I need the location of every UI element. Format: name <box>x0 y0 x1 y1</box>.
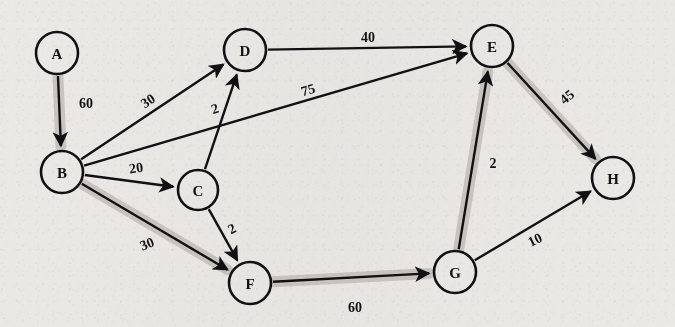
node-b: B <box>41 151 83 193</box>
edge-weight-g-h: 10 <box>525 230 544 250</box>
edge-weight-b-d: 30 <box>138 91 158 111</box>
edge-weight-f-g: 60 <box>348 300 362 315</box>
node-f: F <box>229 262 271 304</box>
edge-weight-b-c: 20 <box>128 160 144 177</box>
node-label-f: F <box>245 276 254 292</box>
node-e: E <box>471 25 513 67</box>
edge-weight-c-d: 2 <box>209 101 220 117</box>
node-label-c: C <box>193 183 204 199</box>
edge-e-h <box>508 63 596 159</box>
node-label-b: B <box>57 165 67 181</box>
node-g: G <box>434 251 476 293</box>
node-label-d: D <box>240 43 251 59</box>
node-d: D <box>224 29 266 71</box>
edge-d-e <box>268 46 466 49</box>
edge-b-c <box>85 175 173 187</box>
node-label-a: A <box>52 46 63 62</box>
node-layer: ABCDEFGH <box>36 25 634 304</box>
edge-weight-b-f: 30 <box>138 234 157 253</box>
edge-weight-a-b: 60 <box>79 96 93 111</box>
edge-g-h <box>475 191 591 260</box>
edge-weight-d-e: 40 <box>361 30 375 45</box>
edge-b-e <box>84 53 467 165</box>
edge-weight-e-h: 45 <box>557 87 577 107</box>
edge-g-e <box>459 72 488 250</box>
node-c: C <box>178 170 218 210</box>
node-label-e: E <box>487 39 497 55</box>
node-h: H <box>592 157 634 199</box>
edge-weight-c-f: 2 <box>225 221 238 238</box>
graph-canvas: ABCDEFGH 603027520302404526010 <box>0 0 675 327</box>
graph-figure: ABCDEFGH 603027520302404526010 <box>0 0 675 327</box>
edge-weight-b-e: 75 <box>299 81 316 99</box>
node-label-g: G <box>449 265 461 281</box>
edge-weight-g-e: 2 <box>490 156 497 171</box>
edge-weight-layer: 603027520302404526010 <box>79 30 577 315</box>
node-label-h: H <box>607 171 619 187</box>
node-a: A <box>36 32 78 74</box>
